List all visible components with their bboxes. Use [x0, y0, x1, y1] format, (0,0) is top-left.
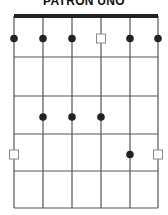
fret-grid: [14, 14, 158, 208]
nut-bar: [14, 14, 158, 18]
note-dot-icon: [39, 113, 47, 121]
root-square-icon: [154, 150, 163, 159]
note-dot-icon: [68, 113, 76, 121]
note-dot-icon: [39, 35, 47, 43]
note-dot-icon: [126, 151, 134, 159]
root-square-icon: [97, 34, 106, 43]
root-square-icon: [10, 150, 19, 159]
note-dot-icon: [154, 35, 162, 43]
note-dot-icon: [97, 113, 105, 121]
note-dot-icon: [68, 35, 76, 43]
note-dot-icon: [126, 35, 134, 43]
fretboard-diagram: [0, 0, 168, 215]
note-dot-icon: [10, 35, 18, 43]
